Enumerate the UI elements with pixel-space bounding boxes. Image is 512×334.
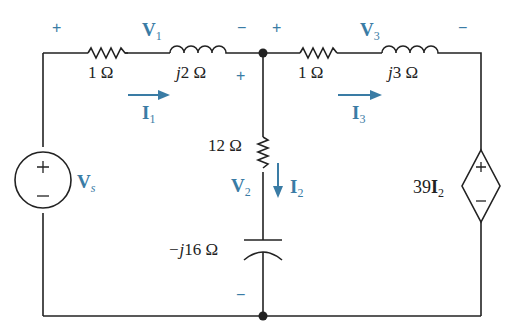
c1-prefix: −j: [168, 240, 184, 259]
resistor-3-icon: [300, 48, 337, 58]
v1-name: V: [142, 19, 156, 40]
v2-plus: +: [236, 68, 245, 84]
node-top: [259, 49, 268, 58]
c1-label: −j16 Ω: [168, 241, 218, 258]
v3-label: V3: [360, 20, 380, 42]
dep-sub: 2: [438, 186, 444, 200]
vs-label: Vs: [77, 172, 95, 194]
dep-var: I: [431, 177, 438, 197]
circuit-schematic: [0, 0, 512, 334]
dep-plus-icon: [476, 162, 486, 172]
resistor-1-icon: [88, 48, 128, 58]
vs-name: V: [77, 171, 91, 192]
v2-minus: −: [236, 287, 245, 303]
dep-source-label: 39I2: [413, 178, 444, 199]
l1-label: j2 Ω: [176, 64, 206, 81]
r3-label: 1 Ω: [298, 64, 323, 81]
inductor-j3-icon: [382, 46, 440, 53]
dep-coef: 39: [413, 177, 431, 197]
i2-sub: 2: [297, 186, 303, 200]
v2-sub: 2: [245, 185, 251, 199]
v2-label: V2: [231, 176, 251, 198]
i1-label: I1: [142, 103, 155, 125]
i3-sub: 3: [359, 112, 365, 126]
resistor-12-icon: [258, 137, 268, 168]
c1-value: 16 Ω: [184, 240, 218, 259]
vs-sub: s: [91, 181, 96, 195]
v1-plus: +: [52, 20, 61, 36]
r1-label: 1 Ω: [88, 64, 113, 81]
l1-value: 2 Ω: [181, 63, 206, 82]
v3-minus: −: [458, 20, 467, 36]
l3-value: 3 Ω: [393, 63, 418, 82]
i2-label: I2: [290, 177, 303, 199]
inductor-j2-icon: [170, 46, 228, 53]
voltage-source-icon: [15, 152, 71, 208]
node-bottom: [259, 312, 268, 321]
v2-name: V: [231, 175, 245, 196]
source-plus-icon: [37, 161, 49, 173]
v1-sub: 1: [156, 29, 162, 43]
v3-sub: 3: [374, 29, 380, 43]
l3-label: j3 Ω: [388, 64, 418, 81]
r2-label: 12 Ω: [208, 137, 242, 154]
v1-minus: −: [237, 20, 246, 36]
v3-plus: +: [272, 20, 281, 36]
v1-label: V1: [142, 20, 162, 42]
v3-name: V: [360, 19, 374, 40]
dependent-source-icon: [462, 150, 500, 222]
i1-sub: 1: [149, 112, 155, 126]
i3-label: I3: [352, 103, 365, 125]
